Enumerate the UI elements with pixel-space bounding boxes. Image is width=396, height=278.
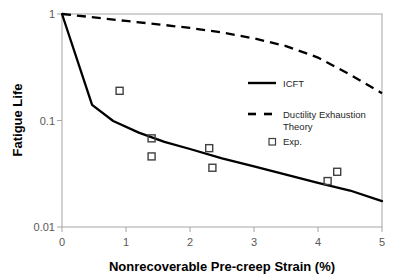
fatigue-life-chart: 1 0.1 0.01 0 1 2 3 4 5 Nonrecoverable Pr… <box>0 0 396 278</box>
y-tick-label-0_1: 0.1 <box>40 115 55 127</box>
y-tick-label-0_01: 0.01 <box>34 221 55 233</box>
x-axis-title: Nonrecoverable Pre-creep Strain (%) <box>109 259 335 274</box>
legend-label-exp: Exp. <box>283 136 302 147</box>
x-tick-label-0: 0 <box>59 236 65 248</box>
legend-label-det-line1: Ductility Exhaustion <box>283 109 366 120</box>
x-tick-label-5: 5 <box>379 236 385 248</box>
plot-frame <box>62 14 382 227</box>
x-axis-ticks <box>62 227 382 232</box>
legend-label-icft: ICFT <box>283 78 304 89</box>
y-tick-label-1: 1 <box>49 8 55 20</box>
y-axis-title: Fatigue Life <box>10 84 25 157</box>
x-tick-label-3: 3 <box>251 236 257 248</box>
x-tick-label-4: 4 <box>315 236 321 248</box>
x-tick-label-2: 2 <box>187 236 193 248</box>
chart-figure: 1 0.1 0.01 0 1 2 3 4 5 Nonrecoverable Pr… <box>0 0 396 278</box>
legend-label-det-line2: Theory <box>283 121 313 132</box>
y-axis-ticks <box>57 14 62 227</box>
x-tick-label-1: 1 <box>123 236 129 248</box>
